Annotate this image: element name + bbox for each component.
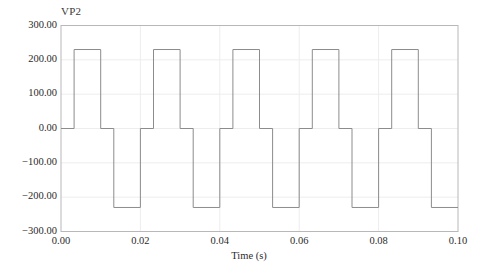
y-axis-tick-labels: −300.00−200.00−100.000.00100.00200.00300… xyxy=(0,0,57,275)
figure-background xyxy=(0,0,480,275)
y-axis-tick-label: 0.00 xyxy=(5,122,57,133)
y-axis-tick-label: −300.00 xyxy=(5,225,57,236)
series-label: VP2 xyxy=(61,5,81,17)
y-axis-tick-label: 100.00 xyxy=(5,87,57,98)
y-axis-tick-label: 200.00 xyxy=(5,53,57,64)
x-axis-title-text: Time (s) xyxy=(231,250,267,261)
x-axis-tick-label: 0.04 xyxy=(211,235,229,246)
x-axis-tick-label: 0.06 xyxy=(290,235,308,246)
plot-svg xyxy=(0,0,480,275)
y-axis-tick-label: −200.00 xyxy=(5,190,57,201)
y-axis-tick-label: 300.00 xyxy=(5,19,57,30)
x-axis-tick-label: 0.10 xyxy=(449,235,467,246)
x-axis-tick-label: 0.02 xyxy=(131,235,149,246)
x-axis-tick-label: 0.08 xyxy=(369,235,387,246)
x-axis-title: Time (s) xyxy=(0,250,480,261)
y-axis-tick-label: −100.00 xyxy=(5,156,57,167)
chart-figure: VP2 −300.00−200.00−100.000.00100.00200.0… xyxy=(0,0,480,275)
x-axis-tick-label: 0.00 xyxy=(52,235,70,246)
